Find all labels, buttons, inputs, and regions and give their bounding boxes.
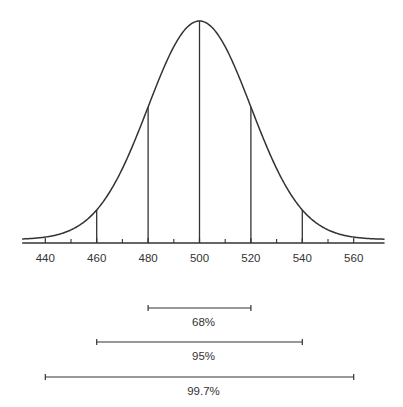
interval-label: 68%	[192, 316, 215, 328]
x-axis	[22, 238, 384, 243]
interval-95pct: 95%	[97, 339, 303, 362]
x-tick-labels: 440460480500520540560	[36, 252, 364, 264]
interval-label: 95%	[192, 350, 215, 362]
normal-curve-path	[22, 21, 384, 239]
x-tick-label: 480	[139, 252, 158, 264]
x-tick-label: 440	[36, 252, 55, 264]
x-tick-label: 500	[190, 252, 209, 264]
sd-vertical-lines	[97, 21, 303, 243]
x-tick-label: 540	[293, 252, 312, 264]
interval-68pct: 68%	[148, 305, 251, 328]
x-tick-label: 520	[241, 252, 260, 264]
x-tick-label: 560	[344, 252, 363, 264]
x-tick-label: 460	[87, 252, 106, 264]
empirical-rule-intervals: 68%95%99.7%	[45, 305, 353, 397]
normal-distribution-chart: 440460480500520540560 68%95%99.7%	[0, 0, 403, 407]
interval-99-7pct: 99.7%	[45, 374, 353, 397]
interval-label: 99.7%	[187, 385, 220, 397]
bell-curve	[22, 21, 384, 239]
